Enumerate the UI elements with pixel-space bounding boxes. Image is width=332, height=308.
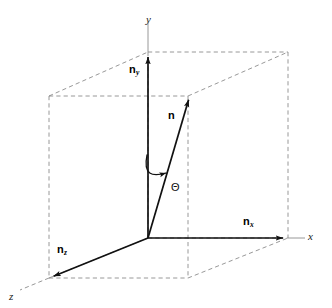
box-edge-depth-top-right [188, 52, 288, 96]
vector-diagram-figure: y x z n ny nx nz Θ [0, 0, 332, 308]
box-edge-depth-bottom-right [188, 238, 288, 278]
vector-label-nx-subscript: x [250, 220, 254, 229]
vector-label-nx-base: n [243, 215, 250, 227]
theta-arc-path [146, 155, 166, 175]
vector-label-ny: ny [129, 64, 139, 75]
bounding-box-dashed [49, 52, 288, 278]
axis-line-z [20, 278, 49, 290]
vector-label-ny-subscript: y [136, 68, 139, 77]
vector-diagram-canvas [0, 0, 332, 308]
axis-label-x: x [308, 231, 313, 242]
angle-label-theta: Θ [171, 182, 180, 193]
axis-label-z: z [9, 291, 13, 302]
vectors-group [54, 57, 284, 276]
vector-label-nz-base: n [57, 243, 64, 255]
axis-label-y: y [146, 14, 151, 25]
vector-nz-shaft [54, 238, 149, 276]
vector-label-nx: nx [243, 216, 253, 227]
vector-label-nz-subscript: z [64, 248, 67, 257]
vector-label-n: n [168, 110, 175, 121]
vector-label-nz: nz [57, 244, 67, 255]
vector-label-n-base: n [168, 109, 175, 121]
theta-curved-arrow [146, 155, 166, 175]
vector-label-ny-base: n [129, 63, 136, 75]
